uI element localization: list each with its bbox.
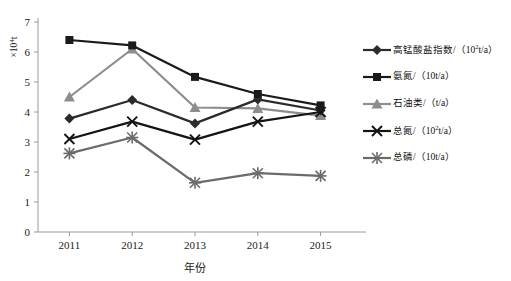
series-line — [69, 40, 320, 105]
series-square — [65, 36, 324, 109]
legend-marker-diamond-icon — [362, 43, 392, 57]
legend-item[interactable]: 总磷/（10t/a） — [362, 144, 510, 171]
data-point-diamond — [190, 118, 200, 128]
legend-key-canvas — [362, 43, 392, 57]
y-axis-tick-label: 4 — [25, 106, 31, 118]
x-axis-tick-label: 2011 — [59, 239, 81, 251]
y-axis-tick-label: 7 — [25, 16, 31, 28]
legend-item[interactable]: 总氮/（102t/a） — [362, 117, 510, 144]
data-point-diamond — [127, 95, 137, 105]
data-point-square — [373, 73, 381, 81]
x-axis-title: 年份 — [184, 261, 206, 274]
data-point-diamond — [64, 114, 74, 124]
legend-key-canvas — [362, 97, 392, 111]
legend-marker-triangle-icon — [362, 97, 392, 111]
data-point-square — [191, 73, 199, 81]
chart-legend: 高锰酸盐指数/（102t/a）氨氮/（10t/a）石油类/（t/a）总氮/（10… — [362, 36, 510, 171]
x-axis-tick-label: 2014 — [247, 239, 270, 251]
legend-item-label: 石油类/（t/a） — [393, 98, 455, 108]
x-axis-tick-label: 2012 — [121, 239, 143, 251]
y-axis-tick-label: 6 — [25, 46, 31, 58]
series-line — [69, 138, 320, 183]
y-axis-tick-label: 1 — [25, 196, 31, 208]
legend-item[interactable]: 石油类/（t/a） — [362, 90, 510, 117]
legend-key-canvas — [362, 151, 392, 165]
data-point-square — [128, 41, 136, 49]
legend-item[interactable]: 氨氮/（10t/a） — [362, 63, 510, 90]
data-point-diamond — [372, 45, 382, 55]
legend-item-label: 高锰酸盐指数/（102t/a） — [393, 43, 498, 56]
y-axis-tick-label: 3 — [25, 136, 31, 148]
legend-item-label: 总磷/（10t/a） — [393, 152, 455, 162]
y-axis-tick-label: 2 — [25, 166, 31, 178]
y-axis-tick-label: 0 — [25, 226, 31, 238]
x-axis-tick-label: 2013 — [184, 239, 207, 251]
legend-marker-asterisk-icon — [362, 151, 392, 165]
x-axis-tick-label: 2015 — [310, 239, 333, 251]
data-point-square — [317, 101, 325, 109]
legend-marker-square-icon — [362, 70, 392, 84]
y-axis-unit-label: ×104t — [8, 36, 19, 57]
legend-item-label: 氨氮/（10t/a） — [393, 71, 455, 81]
data-point-square — [254, 90, 262, 98]
legend-marker-cross-icon — [362, 124, 392, 138]
y-axis-tick-label: 5 — [25, 76, 31, 88]
legend-key-canvas — [362, 70, 392, 84]
y-axis-unit-suffix: t — [9, 36, 19, 39]
legend-item-label: 总氮/（102t/a） — [393, 124, 458, 137]
data-point-square — [65, 36, 73, 44]
legend-key-canvas — [362, 124, 392, 138]
legend-item[interactable]: 高锰酸盐指数/（102t/a） — [362, 36, 510, 63]
